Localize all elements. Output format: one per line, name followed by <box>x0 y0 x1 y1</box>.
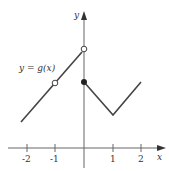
filled-point <box>81 79 87 85</box>
x-axis-arrow-icon <box>157 145 166 151</box>
x-tick-label: 1 <box>110 154 116 164</box>
y-axis-label: y <box>73 10 80 20</box>
y-axis-arrow-icon <box>81 11 87 20</box>
open-point <box>52 80 58 86</box>
open-point <box>81 46 87 52</box>
x-tick-label: 2 <box>138 154 144 164</box>
x-axis-label: x <box>157 152 162 162</box>
curve-label: y = g(x) <box>18 63 56 73</box>
chart: -2 -1 1 2 x y y = g(x) <box>0 0 169 171</box>
x-tick-label: -2 <box>22 154 31 164</box>
x-tick-label: -1 <box>50 154 59 164</box>
curve-right-piece <box>84 82 141 115</box>
